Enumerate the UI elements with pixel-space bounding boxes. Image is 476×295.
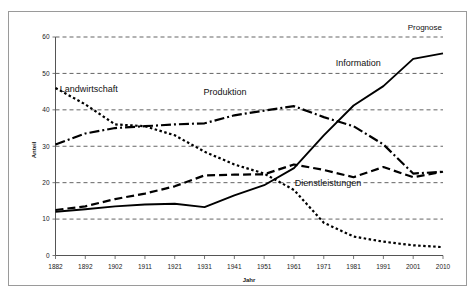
- y-tick-label: 0: [46, 252, 50, 259]
- x-tick-label: 2001: [406, 263, 421, 270]
- y-tick-label: 20: [42, 179, 50, 186]
- x-tick-label: 1911: [138, 263, 152, 270]
- x-tick-label: 2010: [436, 263, 451, 270]
- data-series-group: [56, 53, 444, 247]
- y-tick-label: 10: [42, 215, 50, 222]
- x-tick-label: 1941: [227, 263, 242, 270]
- x-tick-label: 1882: [48, 263, 63, 270]
- x-tick-label: 1971: [317, 263, 332, 270]
- series-line-dienstleistungen: [56, 164, 444, 210]
- series-annotations: PrognoseLandwirtschaftProduktionInformat…: [60, 23, 443, 189]
- y-tick-label: 60: [42, 33, 50, 40]
- annotation-produktion: Produktion: [204, 87, 247, 97]
- series-line-information: [56, 53, 444, 211]
- x-tick-label: 1951: [257, 263, 272, 270]
- x-tick-label: 1902: [108, 263, 123, 270]
- annotation-information: Information: [336, 58, 381, 68]
- x-tick-label: 1961: [287, 263, 302, 270]
- x-tick-labels: 1882189219021911192119311941195119611971…: [48, 263, 450, 270]
- chart-svg: 0102030405060 18821892190219111921193119…: [0, 0, 476, 295]
- y-tick-label: 30: [42, 143, 50, 150]
- x-tick-label: 1892: [78, 263, 93, 270]
- screenshot-root: 0102030405060 18821892190219111921193119…: [0, 0, 476, 295]
- y-tick-label: 50: [42, 70, 50, 77]
- x-tick-label: 1991: [376, 263, 391, 270]
- series-line-produktion: [56, 106, 444, 173]
- y-tick-labels: 0102030405060: [42, 33, 50, 259]
- x-tick-label: 1981: [346, 263, 361, 270]
- annotation-prognose: Prognose: [408, 23, 443, 32]
- x-tick-marks: [56, 256, 444, 260]
- annotation-landwirtschaft: Landwirtschaft: [60, 84, 119, 94]
- annotation-dienstleistungen: Dienstleistungen: [295, 178, 362, 188]
- y-tick-label: 40: [42, 106, 50, 113]
- chart-canvas: 0102030405060 18821892190219111921193119…: [0, 0, 476, 295]
- x-axis-title: Jahr: [243, 277, 256, 283]
- x-tick-label: 1931: [197, 263, 212, 270]
- x-tick-label: 1921: [167, 263, 182, 270]
- y-axis-title: Anteil: [31, 141, 37, 158]
